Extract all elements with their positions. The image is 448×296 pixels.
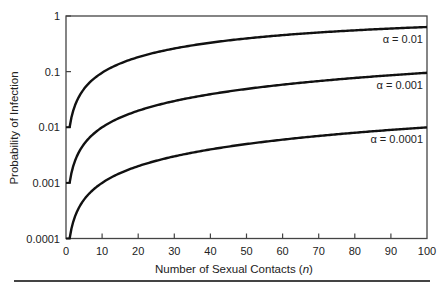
x-tick-label: 80: [349, 245, 361, 257]
x-tick-label: 40: [204, 245, 216, 257]
series-curve: [70, 73, 427, 183]
y-tick-label: 0.0001: [26, 233, 60, 245]
x-tick-label: 90: [385, 245, 397, 257]
x-tick-label: 70: [313, 245, 325, 257]
x-tick-label: 0: [63, 245, 69, 257]
series-label: α = 0.001: [377, 79, 423, 91]
y-tick-label: 0.1: [45, 66, 60, 78]
x-tick-label: 10: [96, 245, 108, 257]
y-tick-label: 0.01: [39, 121, 60, 133]
plot-frame: [66, 16, 427, 239]
y-tick-label: 1: [54, 10, 60, 22]
x-tick-label: 20: [132, 245, 144, 257]
y-axis-title: Probability of Infection: [8, 71, 20, 184]
x-tick-label: 100: [418, 245, 436, 257]
x-tick-label: 30: [168, 245, 180, 257]
y-axis-ticks: 10.10.010.0010.0001: [26, 10, 71, 245]
y-tick-label: 0.001: [32, 177, 60, 189]
x-tick-label: 60: [276, 245, 288, 257]
series-label: α = 0.0001: [370, 133, 423, 145]
bottom-rule: [14, 280, 430, 282]
chart: 10.10.010.0010.0001 01020304050607080901…: [0, 0, 448, 296]
x-axis-ticks: 0102030405060708090100: [63, 234, 436, 257]
series-label: α = 0.01: [383, 33, 423, 45]
x-axis-title: Number of Sexual Contacts (n): [155, 263, 313, 275]
x-tick-label: 50: [240, 245, 252, 257]
